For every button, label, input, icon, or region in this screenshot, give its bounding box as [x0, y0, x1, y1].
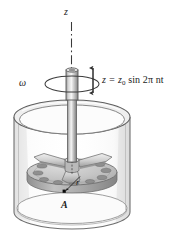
rotating-shaft [66, 68, 78, 162]
equation-prefix: z = z [102, 74, 122, 85]
radius-label: r [76, 178, 80, 187]
equation-body: sin 2π nt [126, 74, 164, 85]
point-a-marker [63, 190, 66, 193]
angular-velocity-label: ω [19, 78, 26, 88]
figure-drawing [0, 0, 182, 245]
oscillation-equation: z = z0 sin 2π nt [102, 75, 164, 87]
physics-figure: z ω z = z0 sin 2π nt r A [0, 0, 182, 245]
point-a-label: A [61, 200, 68, 210]
z-axis-label: z [64, 7, 68, 17]
